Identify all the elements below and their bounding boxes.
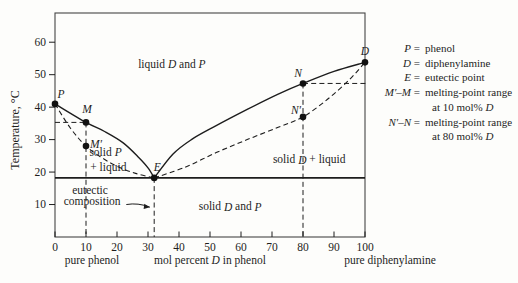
region-label: + liquid [90,161,126,174]
legend-entry: P =phenol [384,41,518,56]
y-tick-label: 30 [35,133,47,145]
x-tick-label: 80 [297,241,309,253]
x-axis-title: mol percent D in phenol [154,254,266,267]
point-M′ [83,143,90,150]
legend-symbol: M′–M = [384,85,420,100]
y-tick-label: 40 [35,101,47,113]
y-axis-title: Temperature, °C [8,90,22,169]
legend: P =phenolD =diphenylamineE =eutectic poi… [384,41,518,144]
legend-symbol: N′–N = [384,115,420,130]
x-tick-label: 50 [204,241,216,253]
legend-text: diphenylamine [425,56,490,71]
legend-text: eutectic point [425,70,485,85]
legend-entry: E =eutectic point [384,70,518,85]
point-label-E: E [153,161,161,173]
point-label-M: M [81,103,93,115]
point-label-P: P [56,88,64,100]
x-tick-label: 30 [142,241,154,253]
point-D [362,59,369,66]
legend-text: phenol [425,41,455,56]
y-tick-label: 10 [35,198,47,210]
region-label: liquid D and P [138,58,205,71]
x-tick-label: 0 [52,241,58,253]
legend-entry: N′–N =melting-point range [384,115,518,130]
x-axis-right-caption: pure diphenylamine [344,254,436,267]
region-label: composition [64,195,121,208]
x-tick-label: 70 [266,241,278,253]
legend-entry: M′–M =melting-point range [384,85,518,100]
y-tick-label: 50 [35,68,47,80]
x-tick-label: 90 [328,241,340,253]
point-label-N: N [293,67,303,79]
point-M [83,119,90,126]
legend-symbol-spacer [384,100,420,115]
phase-diagram-figure: 1020304050600102030405060708090100Temper… [0,0,518,283]
point-N [300,80,307,87]
x-tick-label: 60 [235,241,247,253]
x-axis-left-caption: pure phenol [65,254,120,267]
legend-text: at 80 mol% D [425,129,493,144]
x-tick-label: 10 [80,241,92,253]
legend-entry-continuation: at 80 mol% D [384,129,518,144]
legend-symbol-spacer [384,129,420,144]
point-E [151,175,158,182]
point-label-N′: N′ [290,104,302,116]
point-P [52,101,59,108]
region-label: solid D and P [199,200,262,212]
y-tick-label: 60 [35,36,47,48]
legend-symbol: P = [384,41,420,56]
legend-text: melting-point range [425,115,512,130]
x-tick-label: 20 [111,241,123,253]
legend-entry-continuation: at 10 mol% D [384,100,518,115]
legend-entry: D =diphenylamine [384,56,518,71]
y-tick-label: 20 [35,166,47,178]
legend-text: at 10 mol% D [425,100,493,115]
x-tick-label: 100 [356,241,374,253]
x-tick-label: 40 [173,241,185,253]
region-label: solid D + liquid [273,153,346,166]
region-label: eutectic [72,184,108,196]
point-label-M′: M′ [89,138,103,150]
legend-symbol: E = [384,70,420,85]
legend-symbol: D = [384,56,420,71]
point-label-D: D [360,45,370,57]
legend-text: melting-point range [425,85,512,100]
